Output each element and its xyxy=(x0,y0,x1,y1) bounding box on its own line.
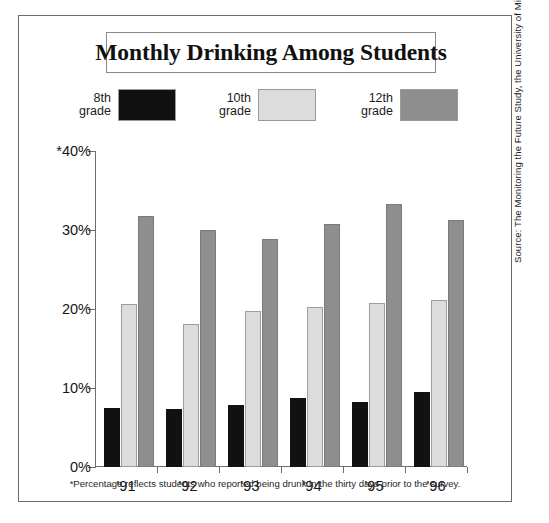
bar-group-91: '91 xyxy=(95,151,157,467)
bar-93-8th-grade xyxy=(228,405,244,467)
x-tick-mark-1 xyxy=(157,467,158,473)
figure-frame: Monthly Drinking Among Students 8th grad… xyxy=(18,15,512,502)
bar-group-95: '95 xyxy=(343,151,405,467)
legend-label-2: 12th grade xyxy=(361,92,393,119)
x-tick-mark-2 xyxy=(219,467,220,473)
bar-group-93: '93 xyxy=(219,151,281,467)
legend-swatch-8th-grade xyxy=(118,89,176,121)
y-tick-label-20: 20% xyxy=(33,301,91,317)
bar-group-94: '94 xyxy=(281,151,343,467)
y-tick-label-40: *40% xyxy=(33,143,91,159)
x-tick-mark-4 xyxy=(343,467,344,473)
legend-swatch-12th-grade xyxy=(400,89,458,121)
legend-swatch-10th-grade xyxy=(258,89,316,121)
bar-91-8th-grade xyxy=(104,408,120,467)
bar-92-8th-grade xyxy=(166,409,182,467)
bar-92-10th-grade xyxy=(183,324,199,467)
bar-group-92: '92 xyxy=(157,151,219,467)
footnote: *Percentage reflects students who report… xyxy=(19,478,511,489)
page-title: Monthly Drinking Among Students xyxy=(95,39,446,66)
x-tick-mark-5 xyxy=(405,467,406,473)
bar-95-8th-grade xyxy=(352,402,368,467)
legend-item-0[interactable]: 8th grade xyxy=(79,89,176,121)
bar-95-10th-grade xyxy=(369,303,385,467)
bar-96-12th-grade xyxy=(448,220,464,467)
x-tick-mark-end xyxy=(467,467,468,473)
bar-94-12th-grade xyxy=(324,224,340,467)
bar-93-12th-grade xyxy=(262,239,278,467)
bar-91-12th-grade xyxy=(138,216,154,467)
title-box: Monthly Drinking Among Students xyxy=(106,32,436,73)
plot-area: 0%10%20%30%*40%'91'92'93'94'95'96 xyxy=(95,151,467,467)
bar-96-8th-grade xyxy=(414,392,430,467)
chart-legend: 8th grade10th grade12th grade xyxy=(79,89,479,127)
bar-95-12th-grade xyxy=(386,204,402,467)
legend-label-1: 10th grade xyxy=(219,92,251,119)
bar-94-10th-grade xyxy=(307,307,323,467)
x-tick-mark-3 xyxy=(281,467,282,473)
y-tick-label-0: 0% xyxy=(33,459,91,475)
legend-label-0: 8th grade xyxy=(79,92,111,119)
bar-group-96: '96 xyxy=(405,151,467,467)
legend-item-2[interactable]: 12th grade xyxy=(361,89,458,121)
bar-96-10th-grade xyxy=(431,300,447,467)
y-tick-label-30: 30% xyxy=(33,222,91,238)
source-credit: Source: The Monitoring the Future Study,… xyxy=(512,23,523,263)
chart-page: Monthly Drinking Among Students 8th grad… xyxy=(0,0,549,523)
y-tick-label-10: 10% xyxy=(33,380,91,396)
bar-91-10th-grade xyxy=(121,304,137,467)
bar-92-12th-grade xyxy=(200,230,216,467)
legend-item-1[interactable]: 10th grade xyxy=(219,89,316,121)
bar-94-8th-grade xyxy=(290,398,306,467)
bar-93-10th-grade xyxy=(245,311,261,467)
